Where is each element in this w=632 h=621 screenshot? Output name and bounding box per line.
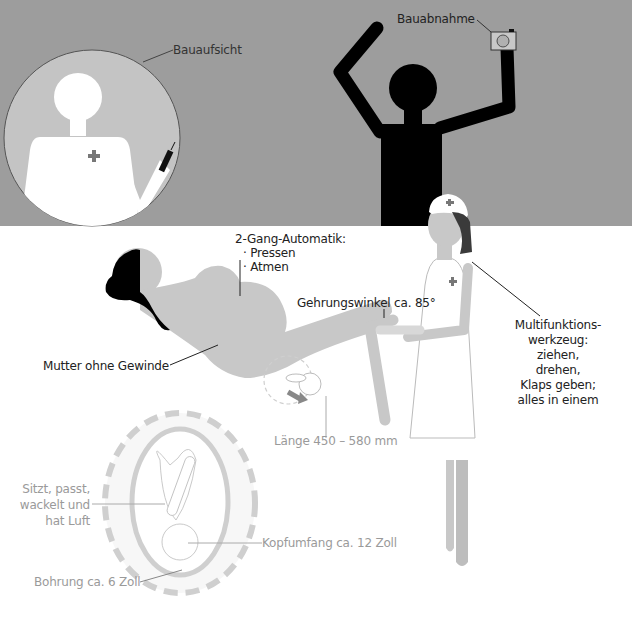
- sitzt-line-1: Sitzt, passt,: [10, 481, 90, 497]
- label-multifunktion: Multifunktions- werkzeug: ziehen, drehen…: [498, 318, 618, 408]
- multifunktion-line-6: alles in einem: [498, 393, 618, 408]
- multifunktion-line-3: ziehen,: [498, 348, 618, 363]
- label-sitzt: Sitzt, passt, wackelt und hat Luft: [10, 481, 90, 529]
- multifunktion-line-5: Klaps geben;: [498, 378, 618, 393]
- label-kopfumfang: Kopfumfang ca. 12 Zoll: [262, 536, 397, 550]
- nurse-figure: [370, 194, 475, 566]
- womb-diagram: [92, 413, 262, 593]
- multifunktion-line-2: werkzeug:: [498, 333, 618, 348]
- automatik-item-atmen: · Atmen: [235, 260, 346, 274]
- label-mutter: Mutter ohne Gewinde: [43, 359, 169, 373]
- label-laenge: Länge 450 – 580 mm: [274, 434, 398, 448]
- illustration: [0, 0, 632, 621]
- doctor-head-icon: [54, 73, 102, 121]
- multifunktion-line-1: Multifunktions-: [498, 318, 618, 333]
- label-bohrung: Bohrung ca. 6 Zoll: [34, 575, 140, 589]
- label-bauabnahme: Bauabnahme: [397, 12, 475, 26]
- label-bauaufsicht: Bauaufsicht: [173, 43, 242, 57]
- label-gehrungswinkel: Gehrungswinkel ca. 85°: [297, 296, 436, 310]
- automatik-title: 2-Gang-Automatik:: [235, 232, 346, 246]
- sitzt-line-2: wackelt und: [10, 497, 90, 513]
- multifunktion-line-4: drehen,: [498, 363, 618, 378]
- label-automatik: 2-Gang-Automatik: · Pressen · Atmen: [235, 232, 346, 274]
- automatik-item-pressen: · Pressen: [235, 246, 346, 260]
- sitzt-line-3: hat Luft: [10, 513, 90, 529]
- birth-infographic: Bauaufsicht Bauabnahme 2-Gang-Automatik:…: [0, 0, 632, 621]
